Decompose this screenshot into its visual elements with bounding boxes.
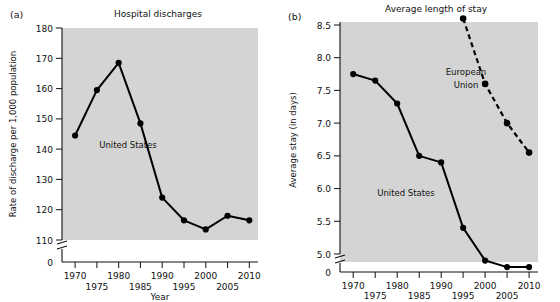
y-axis-title-a: Rate of discharge per 1,000 population [8,51,18,217]
x-tick-label-1995: 1995 [173,282,196,292]
x-tick-label-1975: 1975 [85,282,108,292]
chart-title-b: Average length of stay [385,4,488,14]
data-point [482,81,489,88]
plot-area-background-b [340,22,538,262]
y-tick-label-170: 170 [36,54,53,64]
y-tick-label-8-0: 8.0 [317,53,332,63]
data-point [159,195,165,201]
chart-panel-a: (a) Hospital discharges [0,0,280,302]
x-tick-label-1970: 1970 [64,271,87,281]
x-tick-label-1990-b: 1990 [430,281,453,291]
y-tick-label-150: 150 [36,114,53,124]
data-point [350,71,356,77]
data-point [526,264,532,270]
x-tick-label-1975-b: 1975 [364,291,387,301]
x-axis-title-a: Year [149,292,169,302]
data-point [504,120,511,127]
y-ticks-b [334,25,340,254]
y-tick-labels-a: 180 170 160 150 140 130 120 110 0 [36,24,53,268]
x-tick-labels-a: 1970 1975 1980 1985 1990 1995 2000 2005 … [64,271,261,292]
x-tick-label-2010-b: 2010 [518,281,541,291]
data-point [504,264,510,270]
data-point [137,120,143,126]
data-point [116,60,122,66]
y-tick-label-110: 110 [36,236,53,246]
x-ticks-b [353,272,529,278]
x-tick-label-2005: 2005 [216,282,239,292]
data-point [460,225,466,231]
chart-b-svg: (b) Average length of stay 8.5 8.0 7.5 [280,0,560,302]
data-point [394,100,400,106]
y-tick-labels-b: 8.5 8.0 7.5 7.0 6.5 6.0 5.5 5.0 0 [317,21,332,279]
y-tick-label-8-5: 8.5 [317,21,331,31]
panel-letter-a: (a) [10,9,23,20]
y-tick-label-120: 120 [36,205,53,215]
x-tick-label-2005-b: 2005 [496,291,519,301]
x-tick-label-1990: 1990 [151,271,174,281]
x-tick-label-1970-b: 1970 [342,281,365,291]
y-tick-label-6-0: 6.0 [317,184,332,194]
annotation-european-union-line2: Union [454,80,479,90]
y-tick-label-7-5: 7.5 [317,86,331,96]
y-tick-label-7-0: 7.0 [317,119,332,129]
x-tick-label-1985: 1985 [129,282,152,292]
x-tick-label-2000-b: 2000 [474,281,497,291]
y-axis-break-mark-upper-a [57,241,67,244]
x-tick-label-1980-b: 1980 [386,281,409,291]
chart-title-a: Hospital discharges [114,9,202,19]
annotation-european-union-line1: European [446,67,487,77]
y-tick-label-160: 160 [36,84,53,94]
y-axis-title-b: Average stay (in days) [288,92,298,187]
data-point [482,257,488,263]
data-point [224,213,230,219]
chart-a-svg: (a) Hospital discharges [0,0,280,302]
data-point [246,217,252,223]
data-point [526,149,533,156]
panel-letter-b: (b) [288,11,301,22]
plot-area-background-a [62,28,258,240]
x-tick-label-1985-b: 1985 [408,291,431,301]
data-point [460,15,467,22]
x-tick-label-2010: 2010 [238,271,261,281]
data-point [438,159,444,165]
y-tick-label-6-5: 6.5 [317,151,331,161]
data-point [72,132,78,138]
y-tick-label-140: 140 [36,145,53,155]
y-tick-label-130: 130 [36,175,53,185]
x-tick-labels-b: 1970 1975 1980 1985 1990 1995 2000 2005 … [342,281,541,301]
chart-panel-b: (b) Average length of stay 8.5 8.0 7.5 [280,0,560,302]
x-tick-label-1980: 1980 [107,271,130,281]
annotation-united-states-b-line1: United States [377,188,435,198]
data-point [181,217,187,223]
y-tick-label-0: 0 [47,258,53,268]
data-point [203,226,209,232]
x-tick-label-2000: 2000 [194,271,217,281]
annotation-united-states-a-line1: United States [99,140,157,150]
y-axis-break-mark-lower-a [57,246,67,249]
y-tick-label-5-5: 5.5 [317,217,331,227]
y-tick-label-5-0: 5.0 [317,250,332,260]
x-tick-label-1995-b: 1995 [452,291,475,301]
figure-two-panel-charts: (a) Hospital discharges [0,0,560,302]
data-point [372,78,378,84]
y-tick-label-0-b: 0 [325,268,331,278]
y-tick-label-180: 180 [36,24,53,34]
data-point [416,153,422,159]
x-ticks-a [75,262,249,268]
y-ticks-a [56,28,62,240]
data-point [94,87,100,93]
